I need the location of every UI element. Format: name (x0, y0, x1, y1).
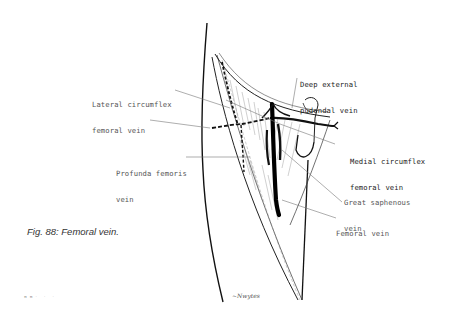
leader-great-saphenous (282, 150, 342, 202)
sartorius-medial-border (217, 55, 302, 300)
thigh-medial-outline (302, 160, 308, 300)
label-lateral-circumflex-femoral-vein: Lateral circumflex femoral vein (92, 84, 172, 144)
label-line: femoral vein (92, 127, 172, 136)
artist-signature: ~Nwytes (232, 292, 260, 299)
leader-deep-external-pudendal (292, 78, 297, 108)
muscle-hatching (225, 75, 300, 220)
label-line: Lateral circumflex (92, 101, 172, 110)
medial-loop (296, 135, 314, 157)
label-line: Femoral vein (336, 230, 389, 239)
leader-femoral-vein (282, 200, 336, 218)
label-deep-external-pudendal-vein: Deep external pudendal vein (300, 64, 358, 124)
label-line: pudendal vein (300, 107, 358, 116)
great-saphenous-vein-path (278, 124, 280, 160)
label-femoral-vein: Femoral vein (336, 213, 389, 247)
label-line: Profunda femoris (116, 170, 187, 179)
label-line: Medial circumflex (350, 158, 425, 167)
lateral-circumflex-dashed (222, 62, 238, 125)
label-profunda-femoris-vein: Profunda femoris vein (116, 153, 187, 213)
label-line: Great saphenous (344, 199, 410, 208)
figure-caption: Fig. 88: Femoral vein. (27, 226, 119, 237)
label-line: vein (116, 196, 187, 205)
label-line: Deep external (300, 81, 358, 90)
page-folio: ππ· · · (24, 294, 57, 299)
